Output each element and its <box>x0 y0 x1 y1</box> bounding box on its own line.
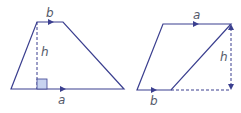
diagram-canvas: b h a a h b <box>0 0 241 113</box>
parallelogram-figure: a h b <box>137 8 234 108</box>
arrow-icon <box>151 87 157 93</box>
label-a-top: a <box>193 8 200 22</box>
right-angle-marker <box>37 79 47 89</box>
label-b-top: b <box>46 6 54 20</box>
arrow-icon <box>60 86 66 92</box>
parallelogram-outline <box>137 24 231 90</box>
arrow-down-icon <box>228 84 234 90</box>
label-h: h <box>41 45 49 59</box>
trapezoid-outline <box>11 22 124 89</box>
label-b-bottom: b <box>150 94 158 108</box>
label-h: h <box>220 50 228 64</box>
label-a-bottom: a <box>58 93 65 107</box>
trapezoid-figure: b h a <box>11 6 124 107</box>
